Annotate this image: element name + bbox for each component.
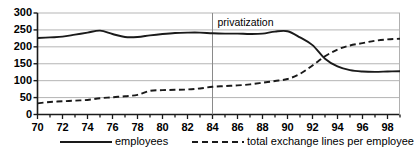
series-line-employees bbox=[38, 31, 401, 72]
x-tick-label-96: 96 bbox=[352, 122, 374, 133]
x-tick-label-84: 84 bbox=[202, 122, 224, 133]
y-tick-label-0: 0 bbox=[2, 109, 32, 120]
x-tick-label-92: 92 bbox=[302, 122, 324, 133]
x-tick-label-90: 90 bbox=[277, 122, 299, 133]
x-tick-label-76: 76 bbox=[102, 122, 124, 133]
privatization-annotation-label: privatization bbox=[218, 17, 274, 28]
x-tick-label-78: 78 bbox=[127, 122, 149, 133]
x-tick-label-88: 88 bbox=[252, 122, 274, 133]
data-series-group bbox=[38, 31, 401, 104]
x-tick-label-82: 82 bbox=[177, 122, 199, 133]
x-tick-label-98: 98 bbox=[377, 122, 399, 133]
y-tick-label-250: 250 bbox=[2, 24, 32, 35]
y-tick-label-150: 150 bbox=[2, 58, 32, 69]
y-tick-label-50: 50 bbox=[2, 92, 32, 103]
series-line-lines-per-employee bbox=[38, 39, 401, 104]
y-tick-label-100: 100 bbox=[2, 75, 32, 86]
y-tick-label-300: 300 bbox=[2, 7, 32, 18]
x-tick-label-80: 80 bbox=[152, 122, 174, 133]
x-tick-label-70: 70 bbox=[27, 122, 49, 133]
x-tick-label-72: 72 bbox=[52, 122, 74, 133]
legend-item-lines-per-employee-label: total exchange lines per employee bbox=[247, 135, 414, 147]
x-tick-label-94: 94 bbox=[327, 122, 349, 133]
legend-item-employees-label: employees bbox=[115, 135, 168, 147]
y-tick-label-200: 200 bbox=[2, 41, 32, 52]
x-tick-label-86: 86 bbox=[227, 122, 249, 133]
x-tick-label-74: 74 bbox=[77, 122, 99, 133]
